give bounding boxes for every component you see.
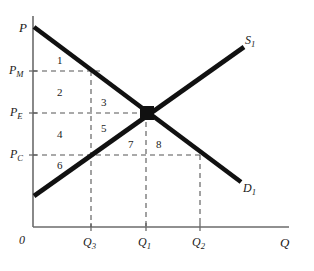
demand-curve-label-base: D [243,181,252,195]
region-label-8: 8 [156,139,162,150]
region-label-6: 6 [57,160,63,171]
supply-curve-label-sub: 1 [251,39,255,49]
price-label-pm-sub: M [16,69,23,79]
quantity-label-q2: Q2 [192,236,205,251]
price-label-pm: PM [9,64,24,79]
demand-curve [34,27,241,182]
quantity-label-q3: Q3 [83,236,96,251]
y-axis-label: P [19,21,27,34]
quantity-label-q1-base: Q [138,235,147,249]
region-label-5: 5 [101,123,107,134]
quantity-label-q3-base: Q [83,235,92,249]
region-label-7: 7 [128,139,134,150]
quantity-label-q1-sub: 1 [147,241,151,251]
region-label-2: 2 [57,87,63,98]
plot-canvas [0,0,314,271]
region-label-1: 1 [57,55,63,66]
supply-curve [34,47,244,196]
region-label-3: 3 [101,97,107,108]
x-axis-label: Q [280,236,289,249]
origin-label: 0 [19,234,25,246]
equilibrium-point-marker [140,106,154,120]
price-label-pe-sub: E [17,111,22,121]
price-label-pe: PE [10,106,23,121]
supply-curve-label: S1 [245,34,255,49]
quantity-label-q2-sub: 2 [201,241,205,251]
quantity-label-q3-sub: 3 [92,241,96,251]
price-label-pc: PC [10,148,23,163]
quantity-label-q1: Q1 [138,236,151,251]
supply-demand-diagram: P Q 0 PM PE PC Q3 Q1 Q2 S1 D1 1 2 3 4 5 … [0,0,314,271]
demand-curve-label-sub: 1 [252,187,256,197]
demand-curve-label: D1 [243,182,256,197]
region-label-4: 4 [57,129,63,140]
price-label-pc-sub: C [17,153,23,163]
quantity-label-q2-base: Q [192,235,201,249]
